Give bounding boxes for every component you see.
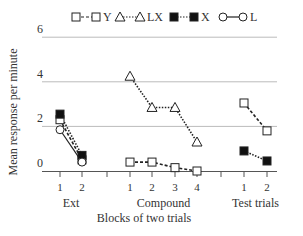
- filled-square-marker: [263, 157, 271, 165]
- axis-labels: 024612Ext1234Compound12Test trialsBlocks…: [6, 22, 279, 225]
- filled-square-marker: [190, 13, 198, 21]
- open-circle-marker: [78, 158, 86, 166]
- x-tick-label: 2: [264, 181, 270, 193]
- y-tick-label: 2: [37, 111, 43, 125]
- legend-label: LX: [147, 10, 163, 24]
- open-square-marker: [263, 127, 271, 135]
- open-square-marker: [193, 167, 201, 175]
- x-tick-label: 4: [194, 181, 200, 193]
- open-circle-marker: [239, 13, 247, 21]
- y-tick-label: 4: [37, 67, 43, 81]
- x-tick-label: 1: [241, 181, 247, 193]
- legend: YLXXL: [72, 10, 257, 24]
- axes: [42, 171, 277, 177]
- x-tick-label: 1: [57, 181, 63, 193]
- filled-square-marker: [240, 147, 248, 155]
- open-triangle-marker: [192, 137, 202, 146]
- group-label: Ext: [63, 196, 80, 210]
- series-line-lx: [130, 76, 197, 142]
- open-circle-marker: [56, 126, 64, 134]
- filled-square-marker: [56, 110, 64, 118]
- line-chart: YLXXL 024612Ext1234Compound12Test trials…: [0, 0, 303, 236]
- open-square-marker: [72, 13, 80, 21]
- legend-label: Y: [103, 10, 112, 24]
- x-tick-label: 1: [127, 181, 133, 193]
- data-lines: [60, 76, 267, 171]
- legend-label: L: [250, 10, 257, 24]
- y-tick-label: 6: [37, 22, 43, 36]
- data-markers: [56, 71, 271, 175]
- legend-label: X: [201, 10, 210, 24]
- open-square-marker: [126, 158, 134, 166]
- x-tick-label: 2: [149, 181, 155, 193]
- group-label: Test trials: [232, 196, 279, 210]
- open-square-marker: [148, 158, 156, 166]
- filled-square-marker: [170, 13, 178, 21]
- gridlines: [42, 37, 277, 126]
- open-square-marker: [171, 164, 179, 172]
- x-tick-label: 2: [79, 181, 85, 193]
- open-circle-marker: [219, 13, 227, 21]
- open-square-marker: [92, 13, 100, 21]
- series-line-y: [130, 162, 197, 171]
- y-tick-label: 0: [37, 156, 43, 170]
- y-axis-title: Mean response per minute: [6, 49, 20, 176]
- open-triangle-marker: [125, 71, 135, 80]
- x-axis-title: Blocks of two trials: [97, 211, 192, 225]
- group-label: Compound: [137, 196, 190, 210]
- open-square-marker: [240, 99, 248, 107]
- x-tick-label: 3: [172, 181, 178, 193]
